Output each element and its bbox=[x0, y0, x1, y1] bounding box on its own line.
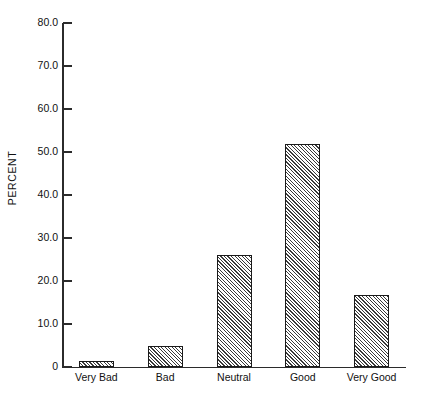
y-axis-tick-label: 30.0 bbox=[12, 231, 58, 243]
bar-very-bad bbox=[79, 361, 114, 367]
y-axis-tick-label: 70.0 bbox=[12, 59, 58, 71]
bar-good bbox=[285, 144, 320, 367]
plot-area bbox=[62, 23, 406, 367]
y-axis-tick-label: 20.0 bbox=[12, 274, 58, 286]
bar-very-good bbox=[354, 295, 389, 367]
y-axis-tick-label: 80.0 bbox=[12, 16, 58, 28]
y-axis-tick-labels: 010.020.030.040.050.060.070.080.0 bbox=[8, 0, 58, 397]
y-axis-tick-label: 10.0 bbox=[12, 317, 58, 329]
y-axis-tick-label: 40.0 bbox=[12, 188, 58, 200]
x-axis-tick-labels: Very BadBadNeutralGoodVery Good bbox=[62, 371, 406, 393]
bar-bad bbox=[148, 346, 183, 367]
y-axis-tick-label: 50.0 bbox=[12, 145, 58, 157]
y-axis-tick-label: 60.0 bbox=[12, 102, 58, 114]
bar-neutral bbox=[217, 255, 252, 367]
bar-chart: PERCENT 010.020.030.040.050.060.070.080.… bbox=[0, 0, 424, 397]
x-axis-tick-label: Very Good bbox=[327, 371, 417, 383]
